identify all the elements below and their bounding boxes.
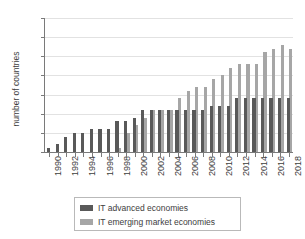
x-tick-mark — [220, 153, 221, 157]
x-tick-mark — [109, 153, 110, 157]
bar-advanced-2018 — [287, 98, 290, 152]
bar-advanced-2015 — [261, 98, 264, 152]
x-tick-mark — [212, 153, 213, 157]
x-tick-mark — [66, 153, 67, 157]
bar-chart-figure: number of countries 05101520253035 19901… — [0, 0, 305, 239]
bar-advanced-2017 — [278, 98, 281, 152]
x-tick-label: 1994 — [87, 156, 97, 176]
x-tick-mark — [246, 153, 247, 157]
legend-item-emerging: IT emerging market economies — [80, 215, 235, 229]
x-tick-mark — [272, 153, 273, 157]
y-tick-mark — [41, 152, 45, 153]
legend-label-emerging: IT emerging market economies — [98, 217, 215, 227]
x-tick-label: 2014 — [259, 156, 269, 176]
bar-advanced-2001 — [141, 110, 144, 152]
x-tick-label: 2008 — [207, 156, 217, 176]
legend-swatch-emerging — [80, 219, 93, 225]
bar-series-layer — [45, 18, 293, 152]
x-tick-label: 2000 — [139, 156, 149, 176]
legend-item-advanced: IT advanced economies — [80, 201, 235, 215]
bar-advanced-1997 — [107, 129, 110, 152]
x-tick-mark — [255, 153, 256, 157]
x-tick-mark — [280, 153, 281, 157]
x-tick-label: 2016 — [276, 156, 286, 176]
x-tick-mark — [178, 153, 179, 157]
x-tick-mark — [118, 153, 119, 157]
x-tick-label: 1998 — [122, 156, 132, 176]
bar-advanced-1990 — [47, 148, 50, 152]
x-tick-mark — [160, 153, 161, 157]
bar-advanced-1992 — [64, 137, 67, 152]
bar-advanced-2006 — [184, 110, 187, 152]
x-tick-mark — [186, 153, 187, 157]
x-tick-mark — [49, 153, 50, 157]
bar-advanced-2008 — [201, 110, 204, 152]
x-tick-mark — [263, 153, 264, 157]
x-tick-label: 2018 — [293, 156, 303, 176]
bar-advanced-2010 — [218, 106, 221, 152]
x-tick-mark — [83, 153, 84, 157]
bar-advanced-2012 — [235, 98, 238, 152]
bar-advanced-2002 — [150, 110, 153, 152]
bar-advanced-2005 — [175, 110, 178, 152]
x-tick-label: 1992 — [70, 156, 80, 176]
y-axis-title: number of countries — [11, 24, 21, 154]
bar-advanced-2003 — [158, 110, 161, 152]
x-tick-mark — [101, 153, 102, 157]
bar-advanced-2004 — [167, 110, 170, 152]
x-tick-label: 2006 — [190, 156, 200, 176]
bar-advanced-2016 — [269, 98, 272, 152]
bar-advanced-1999 — [124, 121, 127, 152]
x-tick-mark — [229, 153, 230, 157]
x-tick-label: 2004 — [173, 156, 183, 176]
x-tick-mark — [195, 153, 196, 157]
bar-advanced-2000 — [133, 118, 136, 152]
legend-label-advanced: IT advanced economies — [98, 203, 188, 213]
plot-area — [45, 18, 293, 152]
x-tick-label: 1996 — [105, 156, 115, 176]
x-tick-mark — [75, 153, 76, 157]
bar-advanced-2009 — [210, 106, 213, 152]
x-tick-label: 2010 — [224, 156, 234, 176]
x-tick-mark — [126, 153, 127, 157]
x-tick-mark — [92, 153, 93, 157]
x-tick-label: 1990 — [53, 156, 63, 176]
bar-advanced-1998 — [115, 121, 118, 152]
bar-advanced-2007 — [192, 110, 195, 152]
bar-advanced-1991 — [56, 144, 59, 152]
legend-swatch-advanced — [80, 205, 93, 211]
x-tick-mark — [135, 153, 136, 157]
bar-advanced-1993 — [73, 133, 76, 152]
x-tick-mark — [58, 153, 59, 157]
x-tick-label: 2012 — [241, 156, 251, 176]
bar-advanced-1996 — [98, 129, 101, 152]
bar-advanced-2013 — [244, 98, 247, 152]
x-tick-label: 2002 — [156, 156, 166, 176]
x-tick-mark — [237, 153, 238, 157]
x-tick-mark — [289, 153, 290, 157]
bar-advanced-1995 — [90, 129, 93, 152]
x-tick-mark — [169, 153, 170, 157]
bar-advanced-2014 — [252, 98, 255, 152]
x-tick-mark — [203, 153, 204, 157]
bar-advanced-2011 — [227, 106, 230, 152]
chart-legend: IT advanced economies IT emerging market… — [74, 197, 241, 231]
x-tick-mark — [143, 153, 144, 157]
bar-advanced-1994 — [81, 133, 84, 152]
x-tick-mark — [152, 153, 153, 157]
